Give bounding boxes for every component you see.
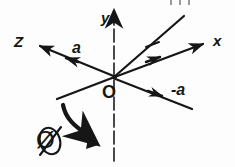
origin-label: O [102, 83, 116, 101]
figure-container: Z x y a -a O Ø [0, 0, 235, 167]
vector-a-label: a [72, 40, 81, 56]
x-axis-label: x [213, 33, 221, 48]
vector-minus-a-label: -a [171, 82, 185, 98]
top-fragment-marks [171, 0, 189, 5]
x-axis-line [112, 44, 203, 78]
phi-label: Ø [36, 128, 55, 152]
z-axis-label: Z [14, 34, 23, 49]
vector-a-line [114, 16, 184, 77]
callout-arrow [63, 105, 98, 149]
y-axis-label: y [101, 10, 109, 25]
